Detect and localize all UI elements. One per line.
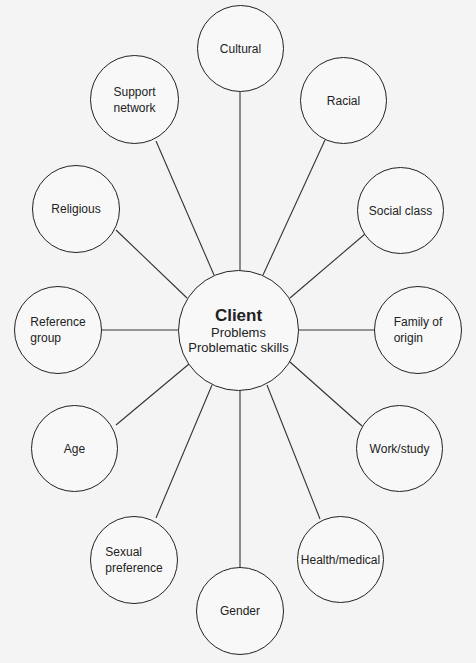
node-label: Cultural: [220, 41, 261, 57]
node-racial: Racial: [300, 57, 387, 144]
node-label: Family of origin: [394, 314, 443, 346]
node-health-medical: Health/medical: [297, 516, 384, 603]
node-social-class: Social class: [357, 167, 444, 254]
node-label: Age: [64, 441, 85, 457]
client-node: Client Problems Problematic skills: [178, 270, 299, 391]
node-label: Work/study: [370, 441, 430, 457]
node-age: Age: [31, 405, 118, 492]
node-sexual-preference: Sexual preference: [90, 516, 178, 604]
client-line-problematic-skills: Problematic skills: [188, 340, 288, 355]
node-work-study: Work/study: [356, 405, 443, 492]
client-line-problems: Problems: [211, 325, 266, 340]
node-gender: Gender: [196, 567, 284, 655]
node-label: Gender: [220, 603, 260, 619]
node-family-of-origin: Family of origin: [374, 286, 462, 374]
node-support-network: Support network: [90, 55, 179, 144]
node-label: Sexual preference: [105, 544, 162, 576]
node-religious: Religious: [32, 165, 120, 253]
node-label: Support network: [113, 84, 155, 116]
node-label: Religious: [51, 201, 100, 217]
client-title: Client: [215, 307, 262, 325]
node-reference-group: Reference group: [14, 286, 102, 374]
node-label: Health/medical: [301, 552, 380, 568]
node-label: Social class: [369, 203, 432, 219]
node-label: Racial: [327, 93, 360, 109]
node-label: Reference group: [30, 314, 85, 346]
node-cultural: Cultural: [197, 5, 284, 92]
